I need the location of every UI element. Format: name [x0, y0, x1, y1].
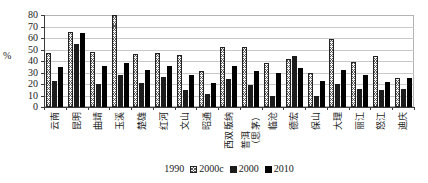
- bar-2010: [320, 81, 325, 107]
- bar-group: [153, 15, 175, 107]
- bar-2010: [407, 78, 412, 107]
- bar-2000: [52, 81, 57, 107]
- bar-2010: [80, 33, 85, 107]
- bar-group: [218, 15, 240, 107]
- bar-2000: [183, 90, 188, 107]
- x-axis-label: 玉溪: [115, 111, 125, 130]
- x-axis-tick: [218, 107, 219, 110]
- bar-1990: [242, 47, 247, 107]
- bar-2000: [314, 96, 319, 108]
- bar-group: [349, 15, 371, 107]
- bar-1990: [373, 56, 378, 107]
- bar-group: [44, 15, 66, 107]
- bar-group: [305, 15, 327, 107]
- bar-2010: [189, 75, 194, 107]
- bar-2000: [118, 75, 123, 107]
- bar-group: [327, 15, 349, 107]
- bar-group: [88, 15, 110, 107]
- bar-2010: [363, 75, 368, 107]
- bar-2000: [270, 96, 275, 108]
- x-axis-tick: [131, 107, 132, 110]
- x-axis-tick: [240, 107, 241, 110]
- x-axis-tick: [327, 107, 328, 110]
- y-tick-label: 60: [0, 33, 38, 43]
- x-axis-label: 楚雄: [137, 111, 147, 130]
- x-axis-label: 怒江: [376, 111, 386, 130]
- bar-group: [370, 15, 392, 107]
- x-axis-label: 昆明: [72, 111, 82, 130]
- bar-2010: [124, 63, 129, 107]
- x-axis-label: 丽江: [355, 111, 365, 130]
- x-axis-label: 文山: [180, 111, 190, 130]
- bar-2010: [145, 70, 150, 107]
- x-axis-tick: [44, 107, 45, 110]
- bar-1990: [220, 47, 225, 107]
- bar-group: [240, 15, 262, 107]
- y-tick-label: 40: [0, 56, 38, 66]
- legend-swatch-icon: [190, 166, 197, 173]
- legend: 19902000c20002010: [44, 163, 414, 175]
- bar-2010: [254, 71, 259, 107]
- bar-2000: [292, 56, 297, 107]
- y-tick-label: 50: [0, 45, 38, 55]
- bar-2000: [335, 84, 340, 107]
- x-axis-label: 红河: [159, 111, 169, 130]
- x-axis-tick: [370, 107, 371, 110]
- bar-group: [131, 15, 153, 107]
- bar-2000: [357, 89, 362, 107]
- bar-2000: [401, 89, 406, 107]
- bar-group: [175, 15, 197, 107]
- x-axis-label: 德宏: [289, 111, 299, 130]
- bar-group: [196, 15, 218, 107]
- x-axis-tick: [196, 107, 197, 110]
- bar-chart-figure: % 80706050403020100 云南昆明曲靖玉溪楚雄红河文山昭通西双版纳…: [0, 0, 428, 183]
- x-axis-tick: [262, 107, 263, 110]
- bar-1990: [351, 62, 356, 107]
- bar-2010: [167, 66, 172, 107]
- x-axis-label: 大理: [333, 111, 343, 130]
- x-axis-tick: [283, 107, 284, 110]
- legend-swatch-icon: [230, 166, 237, 173]
- bar-1990: [199, 71, 204, 107]
- y-tick-label: 10: [0, 91, 38, 101]
- x-axis-tick: [305, 107, 306, 110]
- bar-1990: [112, 15, 117, 107]
- bar-2000: [96, 84, 101, 107]
- bar-1990: [133, 54, 138, 107]
- bar-2010: [341, 70, 346, 107]
- bar-group: [66, 15, 88, 107]
- bar-1990: [68, 32, 73, 107]
- bar-1990: [286, 59, 291, 107]
- bar-2010: [276, 73, 281, 108]
- x-axis-label: 普洱 （思茅）: [241, 111, 261, 149]
- y-tick-label: 80: [0, 10, 38, 20]
- x-axis-tick: [175, 107, 176, 110]
- x-axis-tick: [88, 107, 89, 110]
- bar-group: [283, 15, 305, 107]
- x-axis-tick: [349, 107, 350, 110]
- x-axis-tick: [414, 107, 415, 110]
- bar-1990: [90, 52, 95, 107]
- legend-item: 2000c: [190, 163, 223, 175]
- bar-group: [392, 15, 414, 107]
- bar-2000: [139, 83, 144, 107]
- legend-label: 2000c: [199, 163, 223, 175]
- bar-1990: [308, 73, 313, 108]
- bar-2000: [248, 85, 253, 107]
- x-axis-tick: [109, 107, 110, 110]
- x-axis-label: 临沧: [268, 111, 278, 130]
- bar-group: [262, 15, 284, 107]
- bar-2010: [58, 67, 63, 107]
- bar-2010: [385, 82, 390, 107]
- bar-2000: [226, 79, 231, 107]
- legend-item: 2000: [230, 163, 259, 175]
- bar-1990: [46, 53, 51, 107]
- bar-2000: [74, 44, 79, 107]
- y-axis-line: [44, 15, 45, 108]
- y-tick-label: 0: [0, 102, 38, 112]
- x-axis-line: [44, 107, 414, 108]
- bar-1990: [177, 55, 182, 107]
- legend-swatch-icon: [265, 166, 272, 173]
- bar-2000: [161, 77, 166, 107]
- bar-2010: [298, 68, 303, 107]
